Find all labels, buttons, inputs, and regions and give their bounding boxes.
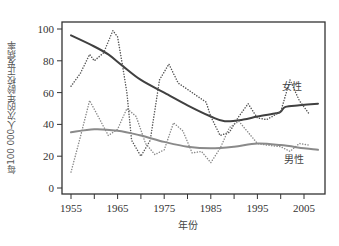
y-tick-label: 40 <box>43 118 55 130</box>
x-tick-label: 1995 <box>246 202 269 214</box>
trend-line-female <box>71 35 318 121</box>
y-tick-label: 0 <box>49 182 55 194</box>
x-tick-label: 1965 <box>107 202 130 214</box>
observed-line-male <box>71 101 309 173</box>
y-tick-label: 100 <box>38 23 55 35</box>
trend-line-male <box>71 129 318 150</box>
x-tick-label: 1985 <box>200 202 223 214</box>
y-axis: 020406080100 <box>38 23 63 194</box>
series-layer <box>71 31 318 173</box>
x-tick-label: 1975 <box>153 202 176 214</box>
y-tick-label: 60 <box>43 87 55 99</box>
x-axis-title: 年份 <box>178 219 198 231</box>
y-tick-label: 20 <box>43 150 55 162</box>
observed-line-female <box>71 31 309 157</box>
female-series-label: 女性 <box>282 80 302 92</box>
x-axis: 195519651975198519952005 <box>60 194 316 214</box>
x-tick-label: 1955 <box>60 202 83 214</box>
male-series-label: 男性 <box>284 153 304 165</box>
y-tick-label: 80 <box>43 55 55 67</box>
line-chart: 020406080100 195519651975198519952005 年份… <box>0 0 339 246</box>
x-tick-label: 2005 <box>293 202 316 214</box>
